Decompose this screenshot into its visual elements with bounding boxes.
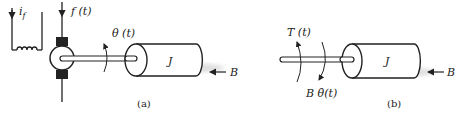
caption-b: (b) — [387, 99, 401, 109]
field-winding-icon — [12, 10, 42, 50]
caption-a: (a) — [137, 99, 151, 109]
field-current-label: if — [19, 6, 26, 20]
dc-motor-diagram: if f (t) θ (t) J B (a) T (t) J B B θ̇(t)… — [0, 0, 463, 117]
figure-a — [12, 2, 226, 102]
figure-b — [280, 42, 444, 82]
inertia-label-a: J — [168, 56, 172, 67]
inertia-cylinder-icon — [125, 44, 224, 76]
friction-torque-label: B θ̇(t) — [306, 88, 337, 99]
angle-label: θ (t) — [112, 28, 135, 39]
armature-input-label: f (t) — [71, 6, 92, 17]
damping-label-b: B — [447, 67, 455, 78]
inertia-label-b: J — [385, 56, 389, 67]
torque-label: T (t) — [287, 27, 311, 38]
field-current-sub: f — [23, 11, 26, 20]
damping-label-a: B — [230, 67, 238, 78]
